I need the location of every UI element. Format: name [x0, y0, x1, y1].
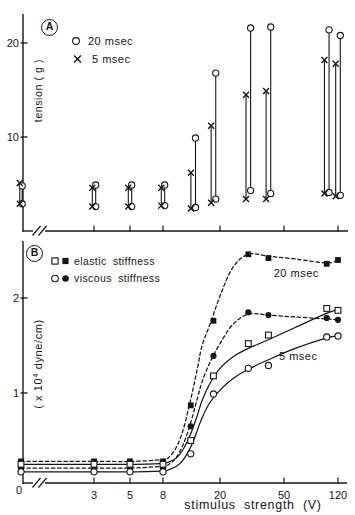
panel-b-label: B [26, 245, 43, 262]
panel-b-legend-label-elastic-stiffness: elastic stiffness [74, 255, 155, 267]
open-circle-marker [248, 25, 254, 31]
open-circle-marker [160, 469, 166, 475]
filled-square-marker [211, 318, 217, 324]
open-circle-marker [213, 70, 219, 76]
open-square-marker [18, 461, 24, 467]
filled-circle-marker [245, 309, 251, 315]
panel-b-x-tick-label-5: 5 [127, 489, 133, 501]
panel-b-x-tick-label-0: 0 [16, 484, 22, 496]
tension-range-lines [20, 27, 341, 208]
open-square-marker [324, 306, 330, 312]
filled-square-marker [335, 257, 341, 263]
open-circle-marker [52, 275, 59, 282]
x-marker [74, 56, 81, 63]
open-circle-marker [335, 333, 341, 339]
filled-square-marker [62, 258, 68, 264]
open-circle-marker [188, 451, 194, 457]
filled-circle-marker [335, 317, 341, 323]
panel-b-y-axis-title: ( x 104 dyne/cm) [29, 293, 43, 435]
open-circle-marker [91, 469, 97, 475]
panel-b-y-axis-title-suffix: dyne/cm) [32, 319, 44, 373]
panel-b-y-axis-title-prefix: ( x 10 [32, 378, 44, 409]
panel-a-legend [73, 38, 81, 63]
open-circle-marker [245, 365, 251, 371]
open-circle-marker [268, 190, 274, 196]
filled-circle-marker [188, 423, 194, 429]
open-circle-marker [326, 27, 332, 33]
figure-page: { "figure": { "background": "#ffffff", "… [0, 0, 355, 515]
curve-viscous-stiffness-20-msec [21, 314, 338, 469]
panel-a-legend-label-20-msec: 20 msec [88, 35, 133, 47]
panel-a-legend-label-5-msec: 5 msec [92, 53, 130, 65]
tension-range-markers [17, 24, 344, 212]
stiffness-curves [21, 254, 338, 472]
open-square-marker [52, 258, 58, 264]
open-square-marker [188, 438, 194, 444]
filled-circle-marker [62, 275, 69, 282]
open-square-marker [245, 341, 251, 347]
filled-square-marker [324, 261, 330, 267]
annotation-20-msec: 20 msec [274, 267, 319, 279]
open-circle-marker [210, 391, 216, 397]
panel-b-y-axis-title-exponent: 4 [31, 373, 40, 378]
open-circle-marker [73, 38, 80, 45]
panel-b-legend [52, 258, 69, 282]
open-square-marker [127, 461, 133, 467]
open-circle-marker [127, 469, 133, 475]
filled-circle-marker [324, 315, 330, 321]
open-circle-marker [18, 469, 24, 475]
annotation-5-msec: 5 msec [279, 350, 317, 362]
filled-circle-marker [210, 353, 216, 359]
panel-a-y-tick-label-10: 10 [7, 131, 19, 143]
open-square-marker [335, 307, 341, 313]
open-circle-marker [337, 32, 343, 38]
panel-b-y-tick-label-1: 1 [13, 387, 19, 399]
filled-square-marker [266, 255, 272, 261]
open-circle-marker [192, 135, 198, 141]
open-square-marker [211, 373, 217, 379]
panel-b-x-tick-label-3: 3 [91, 489, 97, 501]
figure-canvas: 102020 msec5 msec0358205012012elastic st… [0, 0, 355, 515]
open-square-marker [266, 332, 272, 338]
panel-a-label: A [41, 19, 58, 36]
filled-square-marker [188, 402, 194, 408]
panel-b-y-tick-label-2: 2 [13, 292, 19, 304]
filled-square-marker [245, 251, 251, 257]
panel-a-y-tick-label-20: 20 [7, 37, 19, 49]
open-circle-marker [248, 187, 254, 193]
open-circle-marker [268, 24, 274, 30]
x-axis-title: stimulus strength (V) [153, 498, 353, 512]
open-square-marker [160, 461, 166, 467]
open-square-marker [91, 461, 97, 467]
open-circle-marker [324, 334, 330, 340]
panel-a-y-axis-title: tension ( g ) [32, 56, 45, 126]
open-circle-marker [265, 362, 271, 368]
filled-circle-marker [265, 312, 271, 318]
panel-b-legend-label-viscous-stiffness: viscous stiffness [74, 272, 160, 284]
panel-a-axes [21, 14, 349, 236]
